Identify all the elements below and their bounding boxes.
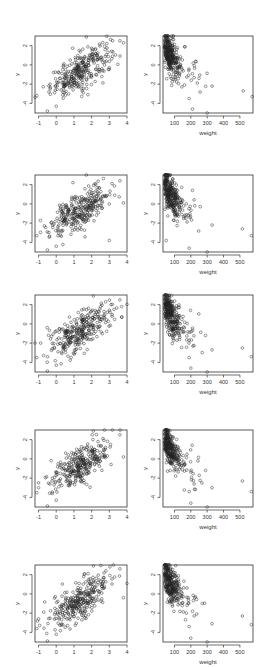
data-point <box>72 181 75 184</box>
x-tick-label: 2 <box>90 259 93 265</box>
data-point <box>204 334 207 337</box>
x-tick-label: 0 <box>55 120 58 126</box>
data-point <box>60 618 63 621</box>
data-point <box>85 308 88 311</box>
data-point <box>89 486 92 489</box>
data-point <box>191 72 194 75</box>
data-point <box>186 335 189 338</box>
data-point <box>53 91 56 94</box>
data-point <box>211 622 214 625</box>
data-point <box>109 565 112 568</box>
y-tick-label: -2 <box>22 611 28 616</box>
x-tick-label: 300 <box>203 514 212 520</box>
data-point <box>70 200 73 203</box>
data-point <box>191 444 194 447</box>
data-point <box>46 326 49 329</box>
data-point <box>71 63 74 66</box>
data-point <box>82 48 85 51</box>
data-point <box>165 461 168 464</box>
data-point <box>61 484 64 487</box>
data-point <box>188 625 191 628</box>
data-point <box>165 77 168 80</box>
x-tick-label: 500 <box>235 379 244 385</box>
data-point <box>171 342 174 345</box>
data-point <box>70 321 73 324</box>
x-tick-label: 300 <box>203 259 212 265</box>
data-point <box>77 617 80 620</box>
data-point <box>101 75 104 78</box>
data-point <box>93 219 96 222</box>
data-point <box>111 55 114 58</box>
y-tick-label: -2 <box>150 611 156 616</box>
data-point <box>176 46 179 49</box>
data-point <box>196 82 199 85</box>
data-point <box>199 479 202 482</box>
data-point <box>56 609 59 612</box>
data-point <box>88 458 91 461</box>
data-point <box>96 64 99 67</box>
data-point <box>176 224 179 227</box>
data-point <box>60 362 63 365</box>
data-point <box>74 224 77 227</box>
data-point <box>103 572 106 575</box>
x-tick-label: 300 <box>203 379 212 385</box>
data-point <box>173 610 176 613</box>
data-point <box>119 298 122 301</box>
data-point <box>85 83 88 86</box>
data-point <box>186 221 189 224</box>
data-point <box>189 367 192 370</box>
data-point <box>82 583 85 586</box>
x-tick-label: 500 <box>235 649 244 655</box>
data-point <box>105 330 108 333</box>
data-point <box>85 483 88 486</box>
data-point <box>242 90 245 93</box>
data-point <box>57 463 60 466</box>
data-point <box>62 78 65 81</box>
data-point <box>180 186 183 189</box>
data-point <box>118 575 121 578</box>
data-point <box>185 456 188 459</box>
data-point <box>183 84 186 87</box>
data-point <box>86 459 89 462</box>
x-tick-label: 400 <box>219 259 228 265</box>
data-point <box>56 211 59 214</box>
data-point <box>171 81 174 84</box>
data-point <box>177 77 180 80</box>
data-point <box>79 347 82 350</box>
data-point <box>113 194 116 197</box>
x-tick-label: 4 <box>125 259 128 265</box>
data-point <box>95 433 98 436</box>
scatter-panel-row2-right: 10020030040050020-2-4yweight <box>142 174 253 275</box>
data-point <box>182 611 185 614</box>
scatter-panel-row2-left: -10123420-2-4y <box>14 174 129 265</box>
data-point <box>87 185 90 188</box>
data-point <box>192 472 195 475</box>
data-point <box>173 300 176 303</box>
data-point <box>82 448 85 451</box>
data-point <box>92 338 95 341</box>
data-point <box>184 618 187 621</box>
data-point <box>164 208 167 211</box>
data-point <box>95 214 98 217</box>
data-point <box>90 83 93 86</box>
data-point <box>188 490 191 493</box>
data-point <box>181 209 184 212</box>
x-tick-label: 200 <box>186 514 195 520</box>
y-tick-label: -2 <box>22 341 28 346</box>
data-point <box>190 79 193 82</box>
data-point <box>175 51 178 54</box>
data-point <box>86 193 89 196</box>
data-point <box>102 82 105 85</box>
y-tick-label: 2 <box>150 438 156 441</box>
data-point <box>87 613 90 616</box>
data-point <box>78 582 81 585</box>
data-point <box>191 610 194 613</box>
y-tick-label: -2 <box>22 476 28 481</box>
data-point <box>60 338 63 341</box>
data-point <box>69 359 72 362</box>
data-point <box>67 93 70 96</box>
data-point <box>53 342 56 345</box>
data-point <box>107 55 110 58</box>
data-point <box>199 205 202 208</box>
data-point <box>108 574 111 577</box>
